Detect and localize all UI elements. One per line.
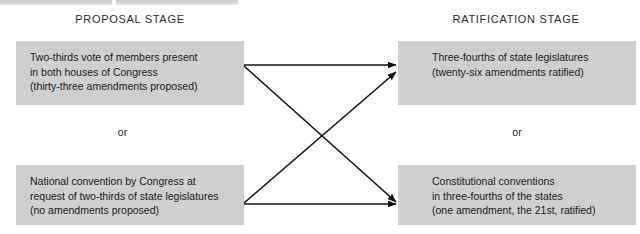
proposal-bottom-box: National convention by Congress at reque… xyxy=(16,165,244,225)
top-edge-bleed-bar-left xyxy=(0,0,112,5)
proposal-bottom-line-2: request of two-thirds of state legislatu… xyxy=(30,189,244,204)
proposal-top-line-1: Two-thirds vote of members present xyxy=(30,50,244,65)
ratification-top-line-1: Three-fourths of state legislatures xyxy=(432,50,636,65)
ratification-bottom-box: Constitutional conventions in three-four… xyxy=(398,165,636,225)
proposal-stage-heading: PROPOSAL STAGE xyxy=(0,13,260,25)
proposal-top-box: Two-thirds vote of members present in bo… xyxy=(16,41,244,105)
proposal-bottom-line-1: National convention by Congress at xyxy=(30,174,244,189)
ratification-bottom-line-3: (one amendment, the 21st, ratified) xyxy=(432,203,636,218)
ratification-top-line-2: (twenty-six amendments ratified) xyxy=(432,65,636,80)
ratification-or-label: or xyxy=(398,126,636,138)
arrow-proposal-bottom-to-ratification-top xyxy=(244,72,396,203)
ratification-stage-heading: RATIFICATION STAGE xyxy=(396,13,636,25)
constitutional-amendment-diagram: PROPOSAL STAGE RATIFICATION STAGE Two-th… xyxy=(0,0,640,234)
ratification-bottom-line-1: Constitutional conventions xyxy=(432,174,636,189)
arrow-proposal-top-to-ratification-bottom xyxy=(244,66,396,202)
ratification-top-box: Three-fourths of state legislatures (twe… xyxy=(398,41,636,105)
proposal-top-line-3: (thirty-three amendments proposed) xyxy=(30,79,244,94)
proposal-bottom-line-3: (no amendments proposed) xyxy=(30,203,244,218)
ratification-bottom-line-2: in three-fourths of the states xyxy=(432,189,636,204)
proposal-top-line-2: in both houses of Congress xyxy=(30,65,244,80)
proposal-or-label: or xyxy=(0,126,245,138)
top-edge-bleed-bar-right xyxy=(116,0,238,5)
